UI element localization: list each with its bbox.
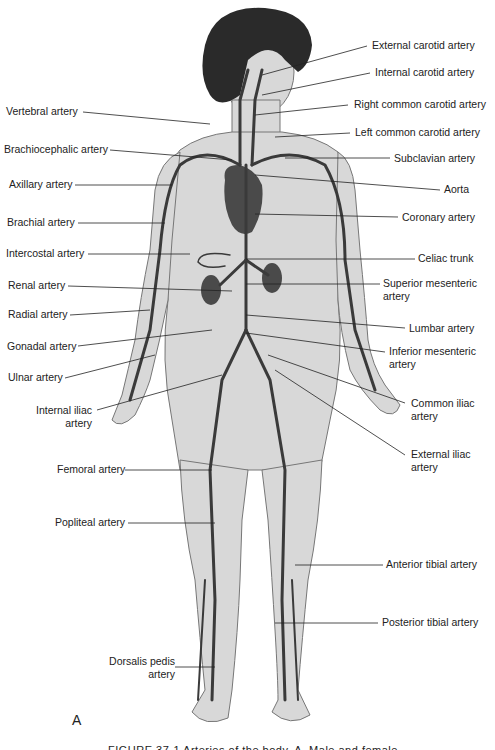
label-internal-carotid-artery: Internal carotid artery (375, 66, 474, 79)
panel-letter: A (72, 712, 81, 728)
label-left-common-carotid-artery: Left common carotid artery (355, 126, 480, 139)
label-popliteal-artery: Popliteal artery (55, 516, 125, 529)
label-lumbar-artery: Lumbar artery (409, 322, 474, 335)
label-vertebral-artery: Vertebral artery (6, 105, 78, 118)
label-coronary-artery: Coronary artery (402, 211, 475, 224)
label-axillary-artery: Axillary artery (9, 178, 73, 191)
label-anterior-tibial-artery: Anterior tibial artery (386, 558, 477, 571)
label-intercostal-artery: Intercostal artery (6, 247, 84, 260)
label-brachial-artery: Brachial artery (7, 216, 75, 229)
label-radial-artery: Radial artery (8, 308, 68, 321)
label-external-iliac-artery: External iliac artery (411, 448, 481, 474)
label-ulnar-artery: Ulnar artery (8, 371, 63, 384)
figure-caption: FIGURE 37-1 Arteries of the body, A. Mal… (108, 744, 398, 750)
label-right-common-carotid-artery: Right common carotid artery (354, 98, 486, 111)
label-aorta: Aorta (444, 183, 469, 196)
label-internal-iliac-artery: Internal iliac artery (32, 404, 92, 430)
label-renal-artery: Renal artery (8, 279, 65, 292)
label-gonadal-artery: Gonadal artery (7, 340, 76, 353)
label-common-iliac-artery: Common iliac artery (411, 397, 481, 423)
label-inferior-mesenteric-artery: Inferior mesenteric artery (389, 345, 489, 371)
label-celiac-trunk: Celiac trunk (418, 252, 473, 265)
label-subclavian-artery: Subclavian artery (394, 152, 475, 165)
label-brachiocephalic-artery: Brachiocephalic artery (4, 143, 108, 156)
label-superior-mesenteric-artery: Superior mesenteric artery (383, 277, 493, 303)
label-dorsalis-pedis-artery: Dorsalis pedis artery (105, 655, 175, 681)
label-posterior-tibial-artery: Posterior tibial artery (382, 616, 478, 629)
right-kidney (262, 263, 282, 293)
label-femoral-artery: Femoral artery (57, 463, 125, 476)
label-external-carotid-artery: External carotid artery (372, 39, 475, 52)
